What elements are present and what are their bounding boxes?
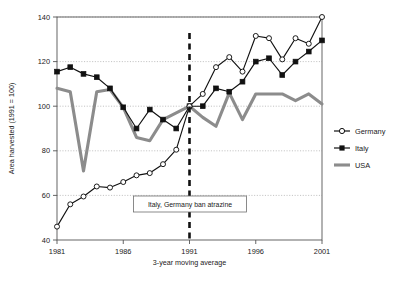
data-point-italy-1997: [267, 56, 272, 61]
data-point-germany-2000: [306, 41, 311, 46]
legend-marker-filled-square-icon: [339, 145, 344, 150]
data-point-italy-1992: [200, 104, 205, 109]
data-point-germany-1994: [227, 55, 232, 60]
data-point-germany-1999: [293, 36, 298, 41]
data-point-italy-1996: [253, 59, 258, 64]
x-tick-label-2001: 2001: [314, 247, 330, 256]
x-tick-label-1981: 1981: [49, 247, 65, 256]
data-point-italy-1988: [147, 107, 152, 112]
data-point-germany-1993: [214, 65, 219, 70]
data-point-germany-1985: [108, 185, 113, 190]
legend-item-italy[interactable]: Italy: [334, 144, 369, 153]
data-point-italy-1989: [161, 117, 166, 122]
y-tick-label-40: 40: [42, 236, 50, 245]
data-point-germany-1992: [200, 91, 205, 96]
data-point-italy-1998: [280, 73, 285, 78]
data-point-italy-1990: [174, 126, 179, 131]
data-point-germany-1981: [55, 224, 60, 229]
y-tick-label-80: 80: [42, 146, 50, 155]
y-tick-label-60: 60: [42, 191, 50, 200]
data-point-germany-1989: [161, 162, 166, 167]
y-tick-label-140: 140: [38, 13, 50, 22]
chart-container: 406080100120140198119861991199620013-yea…: [0, 0, 404, 281]
data-point-germany-1998: [280, 57, 285, 62]
x-tick-label-1991: 1991: [181, 247, 197, 256]
data-point-germany-1988: [147, 171, 152, 176]
legend-label-usa: USA: [355, 161, 370, 170]
data-point-germany-1986: [121, 180, 126, 185]
x-axis-title: 3-year moving average: [153, 258, 227, 267]
legend-label-italy: Italy: [355, 144, 369, 153]
data-point-italy-1999: [293, 59, 298, 64]
x-tick-label-1996: 1996: [248, 247, 264, 256]
y-axis-title: Area harvested (1991 = 100): [7, 83, 16, 175]
data-point-germany-1983: [81, 194, 86, 199]
data-point-italy-1993: [214, 86, 219, 91]
data-point-italy-2001: [320, 38, 325, 43]
x-tick-label-1986: 1986: [115, 247, 131, 256]
data-point-germany-1984: [94, 184, 99, 189]
data-point-germany-1987: [134, 173, 139, 178]
legend-item-germany[interactable]: Germany: [334, 127, 386, 136]
data-point-italy-1994: [227, 89, 232, 94]
data-point-germany-1996: [253, 33, 258, 38]
data-point-germany-1982: [68, 202, 73, 207]
data-point-germany-1997: [267, 36, 272, 41]
data-point-italy-1983: [81, 71, 86, 76]
data-point-italy-1987: [134, 126, 139, 131]
data-point-italy-1995: [240, 79, 245, 84]
data-point-germany-1995: [240, 69, 245, 74]
annotation-label: Italy, Germany ban atrazine: [148, 201, 232, 209]
legend-label-germany: Germany: [355, 127, 386, 136]
data-point-italy-1985: [108, 86, 113, 91]
series-line-italy: [57, 40, 322, 128]
legend-item-usa[interactable]: USA: [334, 161, 370, 170]
line-chart: 406080100120140198119861991199620013-yea…: [0, 0, 404, 281]
data-point-italy-2000: [306, 49, 311, 54]
data-point-germany-1990: [174, 147, 179, 152]
legend-marker-open-circle-icon: [339, 128, 344, 133]
data-point-italy-1984: [94, 75, 99, 80]
y-tick-label-120: 120: [38, 57, 50, 66]
data-point-germany-2001: [320, 15, 325, 20]
data-point-italy-1986: [121, 105, 126, 110]
data-point-italy-1981: [55, 69, 60, 74]
y-tick-label-100: 100: [38, 102, 50, 111]
data-point-italy-1982: [68, 65, 73, 70]
